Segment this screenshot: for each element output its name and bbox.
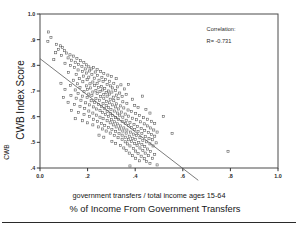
data-point — [120, 111, 122, 113]
data-point — [123, 147, 125, 149]
data-point — [135, 119, 137, 121]
data-point — [139, 137, 141, 139]
x-axis-sublabel: government transfers / total income ages… — [73, 191, 226, 200]
data-point — [56, 43, 58, 45]
data-point — [150, 134, 152, 136]
data-point — [92, 81, 94, 83]
data-point — [53, 59, 55, 61]
data-point — [108, 93, 110, 95]
data-point — [138, 160, 140, 162]
data-point — [83, 114, 85, 116]
data-point — [88, 93, 90, 95]
data-point — [111, 128, 113, 130]
x-axis-ticks: 0.0.2.4.6.81.0 — [36, 168, 282, 179]
data-point — [75, 97, 77, 99]
data-point — [127, 139, 129, 141]
data-point — [98, 99, 100, 101]
data-point — [83, 75, 85, 77]
data-point — [129, 131, 131, 133]
data-point — [108, 80, 110, 82]
data-point — [131, 155, 133, 157]
data-point — [97, 86, 99, 88]
y-tick-label: .6 — [31, 114, 36, 120]
data-point — [149, 162, 151, 164]
data-point — [115, 78, 117, 80]
scatter-chart: 0.0.2.4.6.81.0 1.0.9.8.7.6.5.4 Correlati… — [0, 0, 298, 227]
data-point — [141, 95, 143, 97]
data-point — [68, 71, 70, 73]
data-point — [85, 102, 87, 104]
data-point — [119, 125, 121, 127]
data-point — [105, 130, 107, 132]
data-point — [96, 82, 98, 84]
data-point — [81, 65, 83, 67]
data-point — [122, 101, 124, 103]
data-point — [104, 78, 106, 80]
data-point — [92, 91, 94, 93]
data-point — [70, 95, 72, 97]
data-point — [107, 126, 109, 128]
data-point — [110, 119, 112, 121]
data-point — [120, 84, 122, 86]
data-point — [67, 101, 69, 103]
data-point — [103, 73, 105, 75]
data-point — [135, 135, 137, 137]
data-point — [104, 114, 106, 116]
data-point — [74, 61, 76, 63]
data-point — [119, 92, 121, 94]
data-point — [115, 89, 117, 91]
data-point — [132, 147, 134, 149]
data-point — [86, 64, 88, 66]
data-point — [137, 153, 139, 155]
data-point — [98, 79, 100, 81]
y-tick-label: .4 — [31, 165, 36, 171]
data-point — [125, 94, 127, 96]
data-point — [72, 79, 74, 81]
data-point — [62, 47, 64, 49]
x-tick-label: .8 — [228, 173, 233, 179]
y-tick-label: 1.0 — [28, 11, 36, 17]
data-point — [129, 165, 131, 167]
data-point — [100, 70, 102, 72]
data-point — [88, 116, 90, 118]
data-point — [123, 88, 125, 90]
data-point — [140, 127, 142, 129]
data-point — [94, 84, 96, 86]
data-point — [113, 135, 115, 137]
x-tick-label: 0.0 — [36, 173, 44, 179]
data-point — [143, 158, 145, 160]
data-point — [146, 160, 148, 162]
data-point — [78, 112, 80, 114]
data-point — [109, 132, 111, 134]
data-point — [95, 98, 97, 100]
data-point — [151, 139, 153, 141]
data-point — [123, 127, 125, 129]
data-point — [88, 66, 90, 68]
data-point — [119, 105, 121, 107]
data-point — [72, 55, 74, 57]
data-point — [97, 120, 99, 122]
data-point — [138, 115, 140, 117]
data-point — [73, 66, 75, 68]
data-point — [142, 150, 144, 152]
data-point — [145, 108, 147, 110]
data-point — [129, 145, 131, 147]
data-point — [127, 109, 129, 111]
data-point — [111, 140, 113, 142]
data-point — [71, 59, 73, 61]
data-point — [131, 137, 133, 139]
data-point — [153, 129, 155, 131]
data-point — [74, 118, 76, 120]
data-point — [139, 147, 141, 149]
data-point — [112, 87, 114, 89]
y-tick-label: .5 — [31, 139, 36, 145]
data-point — [101, 128, 103, 130]
data-point — [154, 122, 156, 124]
data-point — [112, 104, 114, 106]
data-point — [77, 93, 79, 95]
data-point — [112, 124, 114, 126]
data-point — [121, 134, 123, 136]
data-point — [93, 118, 95, 120]
data-point — [86, 72, 88, 74]
correlation-value: R= -0.731 — [207, 38, 232, 44]
